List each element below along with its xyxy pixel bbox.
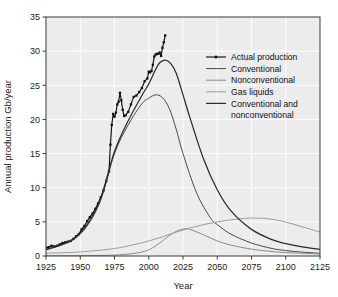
chart-figure: 192519501975200020252050207521002125 051…	[0, 0, 338, 297]
data-point-marker	[161, 47, 163, 49]
data-point-marker	[50, 245, 52, 247]
data-point-marker	[160, 55, 162, 57]
data-point-marker	[117, 101, 119, 103]
data-point-marker	[153, 55, 155, 57]
data-point-marker	[116, 103, 118, 105]
x-tick-label: 2050	[207, 262, 227, 272]
y-tick-label: 0	[35, 251, 40, 261]
data-point-marker	[163, 41, 165, 43]
data-point-marker	[127, 111, 129, 113]
data-point-marker	[113, 116, 115, 118]
legend-item-label: Conventional	[231, 64, 281, 74]
legend-item-label: Nonconventional	[231, 75, 295, 85]
y-tick-label: 35	[30, 12, 40, 22]
data-point-marker	[152, 64, 154, 66]
data-point-marker	[138, 91, 140, 93]
data-point-marker	[143, 80, 145, 82]
legend-item-label: Gas liquids	[231, 87, 274, 97]
legend-swatch-marker	[215, 56, 218, 59]
data-point-marker	[159, 51, 161, 53]
x-tick-label: 2075	[241, 262, 261, 272]
legend-item-label: Conventional and	[231, 99, 298, 109]
y-tick-label: 25	[30, 81, 40, 91]
x-tick-label: 1925	[36, 262, 56, 272]
data-point-marker	[112, 113, 114, 115]
data-point-marker	[135, 94, 137, 96]
data-point-marker	[120, 99, 122, 101]
y-tick-label: 5	[35, 217, 40, 227]
data-point-marker	[133, 96, 135, 98]
y-tick-label: 30	[30, 46, 40, 56]
data-point-marker	[86, 220, 88, 222]
y-axis-label: Annual production Gb/year	[2, 80, 13, 193]
legend-item-label: nonconventional	[231, 110, 294, 120]
oil-production-chart: 192519501975200020252050207521002125 051…	[0, 0, 338, 297]
data-point-marker	[122, 109, 124, 111]
data-point-marker	[146, 77, 148, 79]
x-tick-label: 1950	[70, 262, 90, 272]
x-tick-label: 1975	[104, 262, 124, 272]
data-point-marker	[150, 70, 152, 72]
x-tick-label: 2000	[139, 262, 159, 272]
x-tick-label: 2125	[310, 262, 330, 272]
data-point-marker	[115, 111, 117, 113]
data-point-marker	[119, 92, 121, 94]
y-tick-label: 20	[30, 115, 40, 125]
legend-item-label: Actual production	[231, 52, 298, 62]
x-tick-label: 2025	[173, 262, 193, 272]
x-axis-label: Year	[173, 280, 192, 291]
y-tick-label: 15	[30, 149, 40, 159]
data-point-marker	[141, 87, 143, 89]
data-point-marker	[164, 34, 166, 36]
x-axis-ticks: 192519501975200020252050207521002125	[36, 256, 330, 272]
data-point-marker	[111, 124, 113, 126]
y-tick-label: 10	[30, 183, 40, 193]
data-point-marker	[124, 114, 126, 116]
data-point-marker	[130, 103, 132, 105]
x-tick-label: 2100	[276, 262, 296, 272]
data-point-marker	[109, 144, 111, 146]
